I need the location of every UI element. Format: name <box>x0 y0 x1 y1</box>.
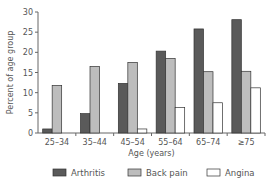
bar-angina <box>175 108 185 133</box>
y-tick-label: 20 <box>23 48 33 57</box>
bar-back-pain <box>128 62 138 133</box>
bar-back-pain <box>204 72 214 133</box>
x-tick-label: 25–34 <box>45 138 69 147</box>
bar-arthritis <box>43 129 53 133</box>
legend-label: Back pain <box>146 168 188 178</box>
bar-arthritis <box>232 20 242 133</box>
y-tick-label: 15 <box>23 69 33 78</box>
y-tick-label: 0 <box>28 129 33 138</box>
x-tick-label: 35–44 <box>83 138 107 147</box>
y-tick-label: 10 <box>23 89 33 98</box>
bar-arthritis <box>194 29 204 133</box>
y-tick-label: 30 <box>23 8 33 17</box>
bar-back-pain <box>241 71 251 133</box>
bar-angina <box>213 103 223 133</box>
chart-root: 05101520253025–3435–4445–5455–6465–74≥75… <box>0 0 270 184</box>
bar-angina <box>137 129 147 133</box>
x-tick-label: 65–74 <box>196 138 220 147</box>
bar-chart: 05101520253025–3435–4445–5455–6465–74≥75… <box>0 0 270 184</box>
bar-arthritis <box>118 83 128 133</box>
y-tick-label: 25 <box>23 28 33 37</box>
bar-back-pain <box>90 66 100 133</box>
bar-arthritis <box>156 51 166 133</box>
legend-swatch-back-pain <box>128 169 141 176</box>
y-axis-title: Percent of age group <box>6 31 15 115</box>
x-tick-label: ≥75 <box>238 138 255 147</box>
legend-swatch-arthritis <box>53 169 66 176</box>
x-tick-label: 45–54 <box>120 138 144 147</box>
bar-back-pain <box>166 58 176 133</box>
legend-label: Arthritis <box>71 168 106 178</box>
bar-angina <box>251 88 260 133</box>
legend-swatch-angina <box>207 169 220 176</box>
y-tick-label: 5 <box>28 109 33 118</box>
x-tick-label: 55–64 <box>158 138 182 147</box>
legend-label: Angina <box>225 168 255 178</box>
bar-arthritis <box>81 114 91 133</box>
bar-back-pain <box>52 85 62 133</box>
x-axis-title: Age (years) <box>128 149 174 158</box>
